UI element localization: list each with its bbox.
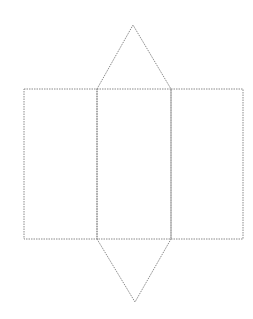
triangle-bottom bbox=[97, 239, 171, 302]
rectangle-right bbox=[171, 89, 243, 239]
rectangle-left bbox=[24, 89, 97, 239]
prism-net-diagram bbox=[0, 0, 253, 319]
rectangle-middle bbox=[97, 89, 171, 239]
triangle-top bbox=[97, 25, 171, 89]
